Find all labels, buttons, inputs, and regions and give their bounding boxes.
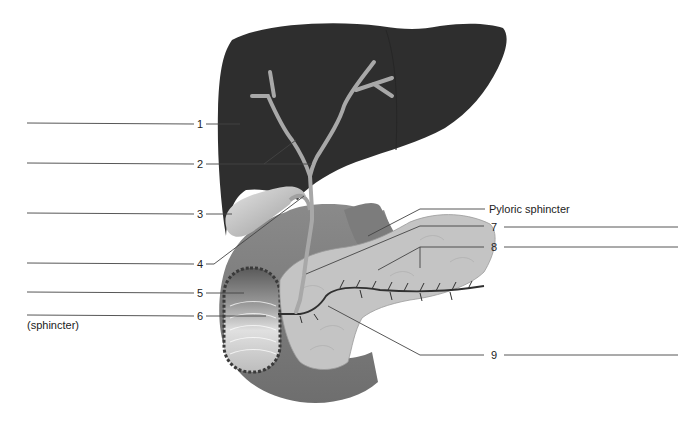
label-6: 6 — [194, 310, 206, 322]
label-2: 2 — [194, 158, 206, 170]
label-4: 4 — [194, 258, 206, 270]
label-1: 1 — [194, 118, 206, 130]
label-7: 7 — [488, 221, 500, 233]
label-5: 5 — [194, 287, 206, 299]
label-9: 9 — [488, 349, 500, 361]
duodenum-cutaway — [224, 268, 280, 372]
anatomy-illustration — [0, 0, 698, 422]
diagram-canvas: 1 2 3 4 5 6 (sphincter) Pyloric sphincte… — [0, 0, 698, 422]
label-8: 8 — [488, 241, 500, 253]
label-3: 3 — [194, 208, 206, 220]
label-pyloric-sphincter: Pyloric sphincter — [489, 203, 570, 215]
sphincter-note: (sphincter) — [27, 319, 79, 331]
